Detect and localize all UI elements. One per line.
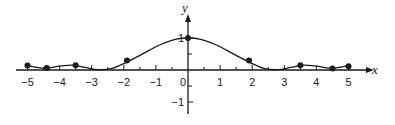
data-point [329, 65, 335, 71]
data-point [124, 57, 130, 63]
data-point [346, 63, 352, 69]
x-axis-label: x [371, 62, 378, 77]
x-tick-label: 1 [217, 76, 223, 88]
data-point [297, 62, 303, 68]
x-tick-label: 0 [180, 76, 186, 88]
y-axis-label: y [180, 0, 188, 15]
x-tick-label: −4 [53, 76, 66, 88]
data-point [73, 62, 79, 68]
x-tick-label: 2 [249, 76, 255, 88]
axes [16, 14, 374, 114]
data-point [185, 35, 191, 41]
data-point [44, 65, 50, 71]
x-tick-label: −1 [150, 76, 163, 88]
x-tick-label: 4 [313, 76, 319, 88]
y-axis-arrow-icon [185, 14, 191, 22]
y-tick-label: −1 [171, 96, 184, 108]
data-point [25, 63, 31, 69]
x-tick-label: −5 [21, 76, 34, 88]
x-tick-label: −3 [85, 76, 98, 88]
data-point [246, 57, 252, 63]
sinc-plot: −5−4−3−2−1012345−11 x y [0, 0, 395, 125]
chart: −5−4−3−2−1012345−11 x y [0, 0, 395, 125]
x-tick-label: −2 [118, 76, 131, 88]
x-tick-label: 5 [345, 76, 351, 88]
x-tick-label: 3 [281, 76, 287, 88]
